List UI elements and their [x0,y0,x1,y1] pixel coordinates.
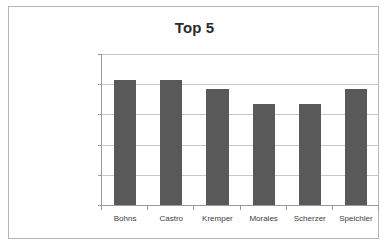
x-axis-tick [193,206,194,210]
x-axis-label: Scherzer [287,214,333,223]
bar-slot [194,54,240,205]
bar-slot [241,54,287,205]
bar-series [102,54,379,205]
x-axis-labels: BohnsCastroKremperMoralesScherzerSpeichl… [102,214,379,223]
bar-slot [102,54,148,205]
bar[interactable] [253,104,275,205]
bar[interactable] [160,80,182,205]
x-axis-tick [286,206,287,210]
x-axis-label: Speichler [333,214,379,223]
bar[interactable] [114,80,136,205]
chart-frame: Top 5 0,00 €5.000.000,00 €10.000.000,00 … [8,6,379,239]
x-axis-tick [147,206,148,210]
x-axis-label: Kremper [194,214,240,223]
bar[interactable] [299,104,321,205]
bar-slot [333,54,379,205]
x-axis-tick [332,206,333,210]
x-axis-tick [240,206,241,210]
x-axis-label: Morales [241,214,287,223]
x-axis-tick [101,206,102,210]
chart-title: Top 5 [9,19,380,36]
bar[interactable] [345,89,367,205]
plot-area: BohnsCastroKremperMoralesScherzerSpeichl… [102,54,379,205]
bar-slot [287,54,333,205]
x-axis-label: Bohns [102,214,148,223]
category-tick-marks [101,206,379,210]
bar[interactable] [206,89,228,205]
bar-slot [148,54,194,205]
x-axis-label: Castro [148,214,194,223]
x-axis-tick [378,206,379,210]
